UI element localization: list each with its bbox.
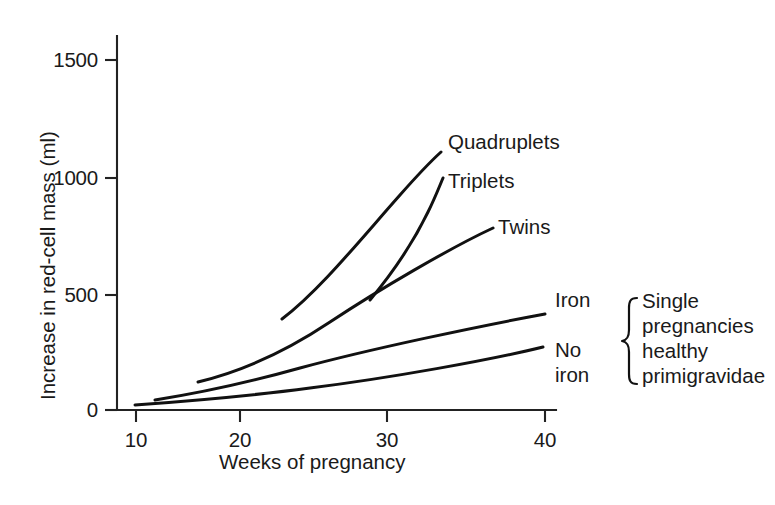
series-line-iron xyxy=(155,314,545,400)
annotation-line-3: healthy xyxy=(642,338,765,363)
series-label-iron: Iron xyxy=(555,288,590,312)
annotation-line-2: pregnancies xyxy=(642,313,765,338)
series-label-twins: Twins xyxy=(498,215,550,239)
x-tick-label-30: 30 xyxy=(357,428,417,452)
x-tick-label-10: 10 xyxy=(106,428,166,452)
series-label-no-iron-line2: iron xyxy=(555,362,589,387)
x-axis-title: Weeks of pregnancy xyxy=(219,450,406,474)
single-pregnancies-annotation: Single pregnancies healthy primigravidae xyxy=(642,288,765,388)
x-tick-label-20: 20 xyxy=(210,428,270,452)
y-axis-title: Increase in red-cell mass (ml) xyxy=(36,131,60,400)
series-label-triplets: Triplets xyxy=(448,169,514,193)
series-label-no-iron-line1: No xyxy=(555,337,589,362)
chart-figure: 1500 1000 500 0 10 20 30 40 Increase in … xyxy=(0,0,775,505)
series-line-triplets xyxy=(370,178,443,300)
annotation-line-4: primigravidae xyxy=(642,363,765,388)
y-tick-label-1500: 1500 xyxy=(24,48,98,72)
series-line-no-iron xyxy=(135,347,543,405)
x-tick-label-40: 40 xyxy=(515,428,575,452)
single-pregnancies-brace xyxy=(622,298,637,384)
series-line-twins xyxy=(198,228,493,382)
series-label-no-iron: No iron xyxy=(555,337,589,387)
y-tick-label-0: 0 xyxy=(24,398,98,422)
annotation-line-1: Single xyxy=(642,288,765,313)
series-label-quadruplets: Quadruplets xyxy=(448,130,560,154)
